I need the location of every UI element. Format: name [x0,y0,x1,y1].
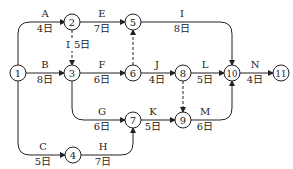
node-7: 7 [125,112,141,128]
svg-text:5: 5 [130,17,136,28]
svg-text:3: 3 [69,68,75,79]
duration-A: 4日 [37,23,53,34]
label-N: N [251,59,260,70]
duration-L: 5日 [197,74,213,85]
duration-H: 7日 [95,156,111,167]
node-1: 1 [10,65,26,81]
network-diagram: 1234567891011 A4日B8日C5日D5日E7日F6日G6日H7日I8… [0,0,293,169]
duration-E: 7日 [94,23,110,34]
svg-text:1: 1 [15,68,21,79]
svg-text:10: 10 [227,69,238,79]
node-9: 9 [175,112,191,128]
duration-B: 8日 [37,74,53,85]
label-J: J [154,59,159,70]
duration-C: 5日 [35,156,51,167]
svg-text:4: 4 [70,150,76,161]
label-M: M [200,106,210,117]
duration-J: 4日 [149,74,165,85]
label-E: E [98,8,105,19]
duration-M: 6日 [197,121,213,132]
node-10: 10 [224,65,240,81]
node-11: 11 [273,65,289,81]
label-G: G [98,106,106,117]
svg-text:9: 9 [180,115,186,126]
svg-text:8: 8 [180,68,186,79]
arrow-M [191,81,232,120]
node-6: 6 [125,65,141,81]
node-3: 3 [64,65,80,81]
label-K: K [149,106,157,117]
label-H: H [99,141,108,152]
duration-I: 8日 [174,23,190,34]
label-F: F [99,59,106,70]
duration-G: 6日 [94,121,110,132]
duration-D: 5日 [74,39,90,50]
svg-text:11: 11 [276,69,287,79]
label-A: A [40,8,49,19]
label-C: C [39,141,47,152]
node-2: 2 [64,14,80,30]
node-4: 4 [65,147,81,163]
label-I: I [180,8,184,19]
svg-text:6: 6 [130,68,136,79]
duration-F: 6日 [94,74,110,85]
duration-K: 5日 [145,121,161,132]
svg-text:2: 2 [69,17,75,28]
duration-N: 4日 [247,74,263,85]
svg-text:7: 7 [130,115,136,126]
label-L: L [202,59,209,70]
node-5: 5 [125,14,141,30]
node-8: 8 [175,65,191,81]
label-B: B [41,59,48,70]
